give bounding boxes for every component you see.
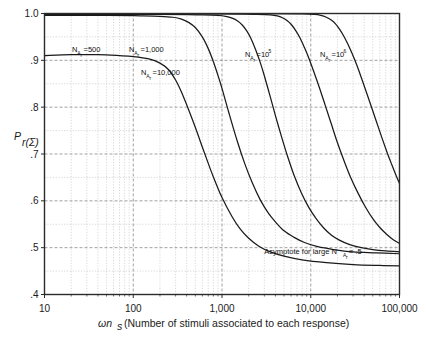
curve-label-value: =1,000	[141, 45, 164, 54]
x-axis-title-rest: (Number of stimuli associated to each re…	[124, 317, 349, 329]
curve-label-value: =10,000	[153, 68, 180, 77]
x-tick-label: 10,000	[295, 303, 326, 314]
y-tick-label: .8	[30, 102, 39, 113]
probability-vs-stimuli-chart: 101001,00010,000100,000 .4.5.6.7.8.91.0 …	[0, 0, 426, 341]
y-tick-label: .4	[30, 289, 39, 300]
x-tick-label: 100,000	[381, 303, 418, 314]
curve-label-exponent: 6	[344, 48, 347, 54]
y-axis-title-subscript: r(Σ)	[22, 136, 39, 148]
annotation-text: Asymptote for large N	[264, 247, 337, 256]
x-axis-title-subscript: s	[117, 320, 123, 332]
curve-label-value: =500	[84, 45, 101, 54]
y-tick-label: .9	[30, 55, 39, 66]
chart-background	[0, 0, 426, 341]
annotation-tail: = .5	[349, 247, 362, 256]
curve-label-value: =10	[257, 50, 270, 59]
x-tick-label: 100	[125, 303, 142, 314]
x-tick-label: 1,000	[209, 303, 234, 314]
y-axis-title-main: P	[14, 130, 21, 142]
x-axis-title-main: ωn	[98, 317, 112, 329]
curve-label-exponent: 5	[269, 48, 272, 54]
y-tick-label: .7	[30, 149, 39, 160]
y-tick-label: 1.0	[25, 8, 39, 19]
y-tick-label: .5	[30, 242, 39, 253]
curve-label-value: =10	[332, 50, 345, 59]
y-tick-label: .6	[30, 195, 39, 206]
chart-figure: 101001,00010,000100,000 .4.5.6.7.8.91.0 …	[0, 0, 426, 341]
x-tick-label: 10	[39, 303, 51, 314]
